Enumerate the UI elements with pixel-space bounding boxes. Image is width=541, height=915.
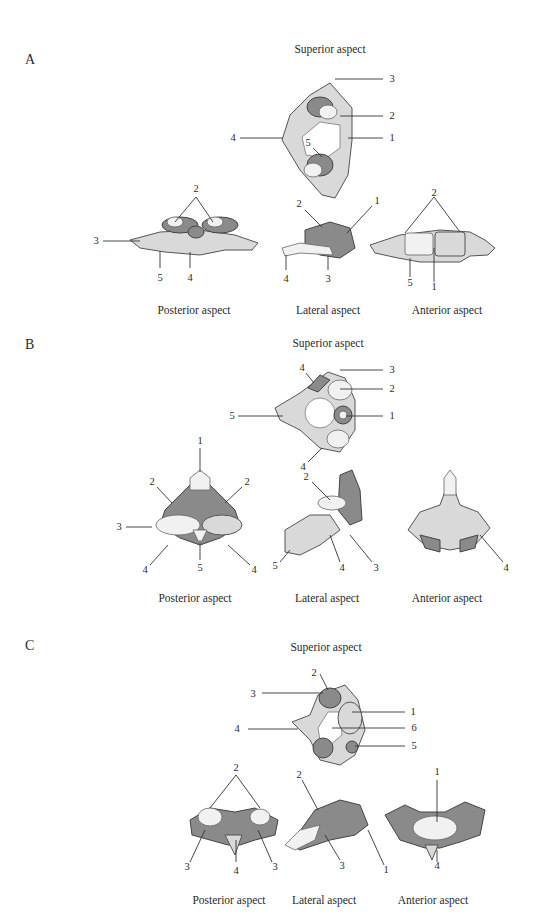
- panel-a-posterior-caption: Posterior aspect: [157, 304, 230, 316]
- label-number: 2: [149, 477, 154, 488]
- vertebrae-illustrations: [0, 0, 541, 915]
- label-number: 4: [234, 724, 239, 735]
- panel-b-anterior-caption: Anterior aspect: [412, 592, 483, 604]
- panel-b-lateral-vertebra: [285, 470, 362, 555]
- label-number: 2: [303, 472, 308, 483]
- label-number: 5: [411, 741, 416, 752]
- panel-a-letter: A: [25, 52, 35, 68]
- panel-a-anterior-vertebra: [370, 230, 495, 262]
- label-number: 1: [383, 865, 388, 876]
- label-number: 4: [187, 273, 192, 284]
- label-number: 5: [197, 563, 202, 574]
- label-number: 2: [431, 188, 436, 199]
- label-number: 4: [503, 563, 508, 574]
- panel-a-anterior-caption: Anterior aspect: [412, 304, 483, 316]
- panel-c-letter: C: [25, 638, 34, 654]
- label-number: 2: [389, 384, 394, 395]
- label-number: 2: [311, 668, 316, 679]
- label-number: 5: [157, 273, 162, 284]
- label-number: 3: [184, 862, 189, 873]
- panel-b-superior-vertebra: [275, 372, 355, 452]
- label-number: 2: [233, 763, 238, 774]
- label-number: 3: [389, 74, 394, 85]
- label-number: 2: [244, 477, 249, 488]
- label-number: 1: [389, 133, 394, 144]
- label-number: 3: [389, 365, 394, 376]
- label-number: 5: [407, 278, 412, 289]
- panel-b-posterior-vertebra: [156, 470, 242, 545]
- label-number: 3: [93, 236, 98, 247]
- label-number: 5: [229, 411, 234, 422]
- label-number: 2: [389, 111, 394, 122]
- panel-b-lateral-caption: Lateral aspect: [295, 592, 359, 604]
- label-number: 1: [374, 196, 379, 207]
- panel-c-anterior-vertebra: [385, 802, 485, 860]
- panel-b-anterior-vertebra: [408, 470, 490, 552]
- panel-c-superior-vertebra: [292, 685, 365, 765]
- panel-c-posterior-vertebra: [190, 808, 278, 855]
- label-number: 4: [434, 861, 439, 872]
- label-number: 4: [142, 565, 147, 576]
- label-number: 4: [251, 565, 256, 576]
- panel-b-posterior-caption: Posterior aspect: [158, 592, 231, 604]
- panel-a-lateral-vertebra: [282, 222, 355, 258]
- panel-c-lateral-caption: Lateral aspect: [292, 894, 356, 906]
- label-number: 4: [230, 133, 235, 144]
- label-number: 4: [283, 274, 288, 285]
- label-number: 2: [296, 770, 301, 781]
- label-number: 3: [373, 563, 378, 574]
- panel-c-superior-caption: Superior aspect: [290, 641, 361, 653]
- panel-b-superior-caption: Superior aspect: [292, 337, 363, 349]
- label-number: 3: [250, 689, 255, 700]
- label-number: 4: [233, 866, 238, 877]
- panel-a-superior-caption: Superior aspect: [294, 43, 365, 55]
- label-number: 3: [272, 862, 277, 873]
- label-number: 5: [272, 561, 277, 572]
- panel-b-letter: B: [25, 337, 34, 353]
- label-number: 3: [325, 274, 330, 285]
- label-number: 4: [299, 363, 304, 374]
- label-number: 4: [339, 563, 344, 574]
- label-number: 1: [389, 411, 394, 422]
- label-number: 1: [431, 282, 436, 293]
- label-number: 1: [434, 767, 439, 778]
- label-number: 3: [116, 522, 121, 533]
- label-number: 2: [296, 199, 301, 210]
- label-number: 2: [193, 184, 198, 195]
- panel-a-lateral-caption: Lateral aspect: [296, 304, 360, 316]
- panel-c-lateral-vertebra: [285, 800, 368, 850]
- panel-a-posterior-vertebra: [130, 217, 258, 255]
- label-number: 6: [411, 723, 416, 734]
- panel-c-posterior-caption: Posterior aspect: [192, 894, 265, 906]
- panel-c-anterior-caption: Anterior aspect: [398, 894, 469, 906]
- panel-a-superior-vertebra: [282, 83, 352, 198]
- label-number: 1: [410, 707, 415, 718]
- label-number: 3: [339, 861, 344, 872]
- label-number: 1: [197, 436, 202, 447]
- label-number: 5: [305, 138, 310, 149]
